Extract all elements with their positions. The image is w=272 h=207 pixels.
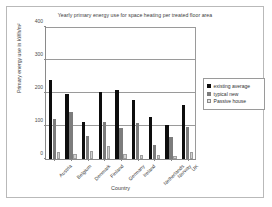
bar [49, 80, 52, 159]
legend-item[interactable]: Passive house [207, 98, 262, 104]
legend-swatch-icon [207, 84, 211, 88]
bar-group [46, 27, 63, 159]
x-tick-label: Finland [109, 163, 125, 179]
bar-group [63, 27, 80, 159]
bar [115, 90, 118, 159]
bar [53, 119, 56, 159]
legend-item[interactable]: existing average [207, 83, 262, 89]
bar-group [179, 27, 196, 159]
bar [57, 152, 60, 159]
x-axis-title: Country [45, 185, 196, 191]
bar [123, 154, 126, 159]
x-tick-label: Austria [58, 163, 73, 178]
bar [169, 137, 172, 159]
bar [90, 151, 93, 159]
chart-title: Yearly primary energy use for space heat… [7, 12, 263, 18]
bar [173, 156, 176, 159]
legend-swatch-icon [207, 92, 211, 96]
y-tick-label: 100 [35, 117, 43, 123]
bar [73, 154, 76, 159]
bar [107, 146, 110, 159]
legend-item[interactable]: typical new [207, 91, 262, 97]
bar [149, 117, 152, 159]
bar [157, 155, 160, 159]
bar-group [129, 27, 146, 159]
chart-legend: existing averagetypical newPassive house [203, 78, 265, 110]
plot-inner: 0100200300400 [46, 27, 196, 159]
bar [69, 112, 72, 159]
bar [140, 155, 143, 159]
bar [132, 100, 135, 159]
bar [86, 136, 89, 159]
bar-group [163, 27, 180, 159]
plot-area: 0100200300400 [45, 27, 196, 160]
legend-label: Passive house [214, 98, 247, 104]
chart-container: Yearly primary energy use for space heat… [6, 6, 264, 198]
bar [182, 105, 185, 159]
x-tick-label: Belgium [75, 163, 92, 180]
bar-group [113, 27, 130, 159]
legend-label: typical new [214, 91, 239, 97]
bar [99, 92, 102, 159]
bar [165, 125, 168, 159]
bar [65, 94, 68, 159]
bar-group [96, 27, 113, 159]
y-tick-label: 200 [35, 84, 43, 90]
x-axis-tick-labels: AustriaBelgiumDenmarkFinlandGermanyIrela… [45, 160, 196, 184]
bars-layer [46, 27, 196, 159]
bar [82, 122, 85, 159]
y-tick-label: 0 [40, 150, 43, 156]
bar [153, 145, 156, 159]
bar [119, 128, 122, 159]
x-tick-label: Denmark [93, 163, 112, 182]
bar [190, 152, 193, 159]
y-axis-title: Primary energy use in kWh/m² [16, 23, 22, 93]
legend-swatch-icon [207, 99, 211, 103]
bar-group [146, 27, 163, 159]
legend-label: existing average [214, 83, 250, 89]
x-tick-label: UK [190, 163, 199, 172]
bar [136, 123, 139, 159]
bar-group [79, 27, 96, 159]
bar [103, 122, 106, 159]
y-tick-label: 400 [35, 18, 43, 24]
bar [186, 127, 189, 159]
y-tick-label: 300 [35, 51, 43, 57]
